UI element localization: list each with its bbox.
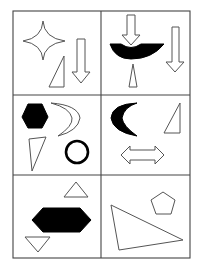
shape-puzzle-figure	[0, 0, 197, 268]
isosceles-triangle-icon	[129, 64, 137, 87]
cell-r3-c1	[25, 182, 91, 252]
triangle-icon	[29, 137, 46, 171]
cell-r1-c2	[110, 15, 184, 87]
down-arrow-icon	[122, 15, 140, 45]
arc-crescent-icon	[110, 44, 164, 59]
cell-r2-c1	[22, 103, 88, 171]
triangle-icon	[64, 182, 88, 197]
elongated-hexagon-icon	[32, 208, 91, 232]
hexagon-icon	[22, 104, 48, 128]
right-triangle-icon	[164, 103, 180, 133]
right-triangle-icon	[49, 56, 64, 87]
scalene-triangle-icon	[111, 205, 183, 250]
crescent-icon	[51, 103, 80, 136]
down-arrow-icon	[72, 39, 90, 83]
circle-ring-icon	[66, 141, 88, 163]
four-pointed-star-icon	[23, 21, 65, 60]
crescent-icon	[111, 103, 137, 136]
down-arrow-icon	[166, 27, 184, 72]
double-headed-arrow-icon	[121, 146, 164, 164]
inverted-triangle-icon	[25, 237, 50, 252]
cell-r2-c2	[111, 103, 180, 164]
cell-r1-c1	[23, 21, 90, 87]
cell-r3-c2	[111, 192, 183, 250]
pentagon-icon	[151, 192, 175, 214]
